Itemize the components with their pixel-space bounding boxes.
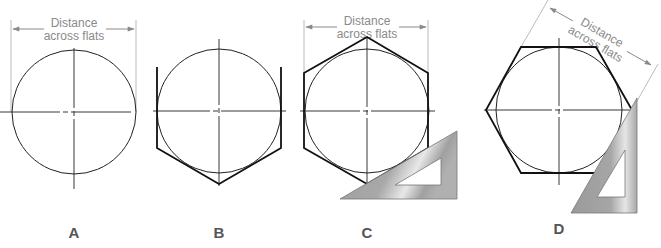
triangle-30-60 bbox=[571, 98, 637, 213]
panel-label-c: C bbox=[362, 224, 373, 241]
panel-b: B bbox=[153, 39, 286, 241]
hexagon-construction-diagram: Distance across flats A B Distance acros… bbox=[0, 0, 661, 248]
panel-label-a: A bbox=[69, 224, 80, 241]
dimension-text-line1: Distance bbox=[344, 14, 391, 28]
dimension-text-line1: Distance bbox=[51, 16, 98, 30]
panel-d: Distance across flats D bbox=[484, 0, 658, 237]
dimension-text-line2: across flats bbox=[44, 29, 105, 43]
triangle-30-60 bbox=[340, 131, 457, 199]
panel-label-b: B bbox=[214, 224, 225, 241]
panel-label-d: D bbox=[554, 220, 565, 237]
extension-line bbox=[521, 0, 548, 47]
panel-a: Distance across flats A bbox=[0, 16, 139, 241]
panel-c: Distance across flats C bbox=[300, 14, 457, 241]
